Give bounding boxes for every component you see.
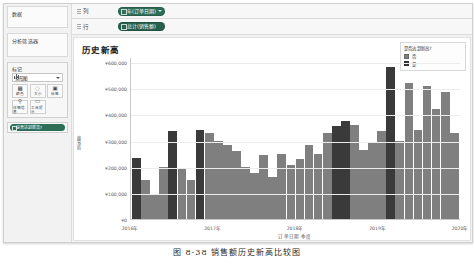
marks-size-button[interactable]: ◌ 大小	[30, 84, 46, 98]
columns-pill-label: 年(订单日期)	[127, 7, 156, 16]
marks-color-shelf[interactable]: 是否达到新高?	[7, 122, 68, 133]
analytics-pane-title: 分析筛选器	[8, 34, 67, 44]
bar[interactable]	[141, 180, 150, 219]
bar[interactable]	[150, 194, 159, 219]
rows-pill-label: 总计(销售额)	[127, 22, 156, 31]
bar[interactable]	[250, 173, 259, 219]
bar[interactable]	[214, 141, 223, 219]
bar-chart-icon	[14, 74, 19, 79]
bar[interactable]	[232, 151, 241, 219]
bar[interactable]	[187, 180, 196, 219]
gridline	[131, 168, 460, 169]
bar[interactable]	[350, 125, 359, 219]
bar[interactable]	[359, 150, 368, 219]
bar[interactable]	[332, 126, 341, 219]
bar[interactable]	[268, 177, 277, 219]
columns-pill[interactable]: 年(订单日期)	[118, 7, 165, 16]
marks-detail-label: 详细信息	[13, 106, 27, 114]
bar[interactable]	[414, 130, 423, 219]
marks-card-title: 标记	[8, 63, 67, 73]
bar[interactable]	[395, 141, 404, 219]
x-axis-tick-label: 2017年	[204, 225, 221, 231]
legend-title: 是否达到新高?	[404, 45, 462, 51]
columns-shelf[interactable]: 列 年(订单日期)	[72, 4, 472, 19]
color-field-pill[interactable]: 是否达到新高?	[10, 124, 65, 131]
marks-label-button[interactable]: ▣ 标签	[47, 84, 63, 98]
detail-icon: ⚲	[18, 99, 22, 105]
bar[interactable]	[277, 154, 286, 219]
y-axis-tick-label: ¥200,000	[105, 165, 127, 170]
marks-label-label: 标签	[51, 92, 59, 96]
bar[interactable]	[314, 154, 323, 219]
bar[interactable]	[223, 145, 232, 219]
marks-card: 标记 条形图 ▦ 颜色 ◌ 大小 ▣	[7, 62, 68, 118]
rows-shelf-label: 行	[72, 23, 118, 31]
gridline	[131, 89, 460, 90]
x-axis-tick-label: 2018年	[287, 225, 304, 231]
bar[interactable]	[305, 145, 314, 219]
y-axis-tick-label: ¥0	[121, 218, 127, 223]
columns-shelf-label: 列	[72, 7, 118, 15]
bar[interactable]	[423, 86, 432, 219]
x-axis-tick-label: 2019年	[369, 225, 386, 231]
figure-caption: 图 8-38 销售额历史新高比较图	[0, 246, 474, 257]
bar[interactable]	[441, 92, 450, 219]
calendar-icon	[121, 9, 127, 15]
marks-tooltip-label: 工具提示	[31, 106, 45, 114]
x-axis-tick-label: 2020年	[452, 225, 469, 231]
y-axis-tick-label: ¥500,000	[105, 87, 127, 92]
color-field-pill-label: 是否达到新高?	[16, 125, 42, 130]
y-axis-tick-label: ¥400,000	[105, 113, 127, 118]
rows-pill[interactable]: 总计(销售额)	[118, 22, 165, 31]
shelves: 列 年(订单日期) 行 总计(销售额)	[72, 4, 472, 36]
color-palette-icon: ▦	[17, 86, 22, 92]
marks-size-label: 大小	[34, 92, 42, 96]
rows-shelf-text: 行	[83, 23, 89, 31]
marks-color-label: 颜色	[16, 92, 24, 96]
bar[interactable]	[323, 133, 332, 219]
bar[interactable]	[287, 165, 296, 219]
bar[interactable]	[196, 130, 205, 219]
plot-canvas	[130, 58, 460, 220]
data-pane[interactable]: 数据	[7, 6, 68, 28]
grip-icon	[77, 9, 81, 14]
x-axis-title: 订单日期 季度	[130, 233, 460, 239]
measure-icon	[121, 24, 127, 30]
grip-icon	[77, 24, 81, 29]
plot-area: 销售额 ¥0¥100,000¥200,000¥300,000¥400,000¥5…	[74, 58, 470, 240]
y-axis: ¥0¥100,000¥200,000¥300,000¥400,000¥500,0…	[82, 58, 130, 220]
bar[interactable]	[368, 143, 377, 219]
y-axis-tick-label: ¥100,000	[105, 191, 127, 196]
gridline	[131, 115, 460, 116]
gridline	[131, 142, 460, 143]
marks-buttons: ▦ 颜色 ◌ 大小 ▣ 标签 ⚲ 详细信息	[8, 82, 67, 114]
gridline	[131, 194, 460, 195]
tooltip-icon: ▭	[35, 99, 40, 105]
bar[interactable]	[341, 121, 350, 219]
chevron-down-icon	[158, 10, 162, 12]
rows-shelf[interactable]: 行 总计(销售额)	[72, 19, 472, 35]
x-axis-tick-label: 2016年	[122, 225, 139, 231]
bar[interactable]	[432, 109, 441, 219]
bar[interactable]	[377, 131, 386, 219]
field-icon	[12, 126, 17, 131]
marks-tooltip-button[interactable]: ▭ 工具提示	[30, 100, 46, 114]
mark-type-dropdown[interactable]: 条形图	[12, 73, 63, 82]
y-axis-tick-label: ¥600,000	[105, 61, 127, 66]
bar[interactable]	[168, 131, 177, 219]
bar[interactable]	[205, 133, 214, 219]
label-icon: ▣	[52, 86, 57, 92]
marks-color-button[interactable]: ▦ 颜色	[12, 84, 28, 98]
bar[interactable]	[259, 155, 268, 219]
data-pane-title: 数据	[8, 7, 67, 17]
chevron-down-icon	[56, 77, 60, 79]
bar[interactable]	[405, 83, 414, 219]
left-sidebar: 数据 分析筛选器 标记 条形图 ▦ 颜色 ◌	[4, 4, 72, 242]
analytics-pane[interactable]: 分析筛选器	[7, 33, 68, 57]
gridline	[131, 63, 460, 64]
columns-shelf-text: 列	[83, 7, 89, 15]
bar[interactable]	[450, 133, 459, 219]
marks-detail-button[interactable]: ⚲ 详细信息	[12, 100, 28, 114]
x-axis: 2016年2017年2018年2019年2020年	[130, 221, 460, 233]
size-icon: ◌	[35, 86, 40, 92]
